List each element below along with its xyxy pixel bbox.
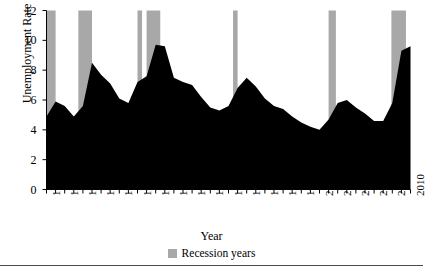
y-tick-label-12: 12 (11, 5, 37, 17)
x-tick-label-2004: 2004 (360, 174, 371, 196)
y-tick-label-10: 10 (11, 34, 37, 46)
x-tick-label-1988: 1988 (214, 174, 225, 196)
x-tick-label-1974: 1974 (87, 174, 98, 196)
x-tick-label-1970: 1970 (51, 174, 62, 196)
x-tick-label-1992: 1992 (251, 174, 262, 196)
x-tick-label-1980: 1980 (142, 174, 153, 196)
x-tick-label-2000: 2000 (324, 174, 335, 196)
y-tick-label-6: 6 (11, 94, 37, 106)
x-tick-label-2006: 2006 (378, 174, 389, 196)
y-tick-label-4: 4 (11, 124, 37, 136)
x-tick-label-2010: 2010 (415, 174, 426, 196)
x-tick-label-2002: 2002 (342, 174, 353, 196)
x-tick-label-2008: 2008 (396, 174, 407, 196)
recession-legend-swatch (168, 249, 177, 258)
y-tick-label-0: 0 (11, 184, 37, 196)
x-tick-label-1982: 1982 (160, 174, 171, 196)
x-tick-label-1996: 1996 (287, 174, 298, 196)
x-axis-label: Year (0, 229, 423, 244)
x-tick-label-1972: 1972 (69, 174, 80, 196)
y-tick-marks (43, 11, 47, 190)
x-tick-marks (47, 190, 411, 194)
y-tick-label-2: 2 (11, 154, 37, 166)
x-tick-label-1994: 1994 (269, 174, 280, 196)
x-tick-label-1998: 1998 (305, 174, 316, 196)
x-tick-label-1986: 1986 (196, 174, 207, 196)
x-tick-label-1990: 1990 (233, 174, 244, 196)
x-tick-label-1978: 1978 (123, 174, 134, 196)
x-tick-label-1976: 1976 (105, 174, 116, 196)
x-tick-label-1984: 1984 (178, 174, 189, 196)
y-tick-label-8: 8 (11, 64, 37, 76)
recession-legend-label: Recession years (182, 247, 256, 259)
unemployment-area-series (47, 45, 411, 190)
footer-divider (0, 265, 423, 266)
chart-legend: Recession years (0, 247, 423, 259)
